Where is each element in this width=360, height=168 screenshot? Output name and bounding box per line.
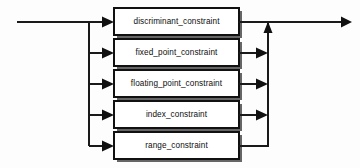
alternative-row-1: discriminant_constraint bbox=[89, 8, 269, 38]
row-4-label: index_constraint bbox=[146, 110, 208, 119]
row-2-label: fixed_point_constraint bbox=[136, 48, 218, 57]
row-5-in-arrow-icon bbox=[102, 141, 114, 152]
row-1-in-arrow-icon bbox=[102, 17, 114, 28]
row-4-in-arrow-icon bbox=[102, 110, 114, 121]
row-5-label: range_constraint bbox=[145, 141, 208, 150]
alternative-row-5: range_constraint bbox=[89, 132, 269, 162]
railroad-diagram: discriminant_constraint fixed_point_cons… bbox=[0, 0, 360, 168]
row-3-label: floating_point_constraint bbox=[131, 79, 223, 88]
merge-up-arrow-icon bbox=[264, 22, 273, 34]
row-3-out-arrow-icon bbox=[256, 79, 268, 90]
railroad-diagram-canvas: discriminant_constraint fixed_point_cons… bbox=[0, 0, 360, 168]
row-2-out-arrow-icon bbox=[256, 48, 268, 59]
alternative-row-2: fixed_point_constraint bbox=[89, 39, 268, 69]
row-1-label: discriminant_constraint bbox=[133, 17, 220, 26]
exit-arrow-icon bbox=[341, 17, 352, 28]
row-4-out-arrow-icon bbox=[256, 110, 268, 121]
row-3-in-arrow-icon bbox=[102, 79, 114, 90]
alternative-row-4: index_constraint bbox=[89, 101, 268, 131]
row-2-in-arrow-icon bbox=[102, 48, 114, 59]
alternative-row-3: floating_point_constraint bbox=[89, 70, 268, 100]
